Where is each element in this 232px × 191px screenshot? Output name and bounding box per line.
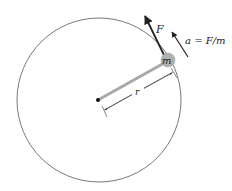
force-label: F [155,23,164,36]
center-pivot [96,98,100,102]
diagram-canvas: r F a = F/m m [0,0,232,191]
acceleration-label: a = F/m [185,35,226,46]
mass-label: m [162,55,171,66]
radius-label: r [135,87,140,97]
